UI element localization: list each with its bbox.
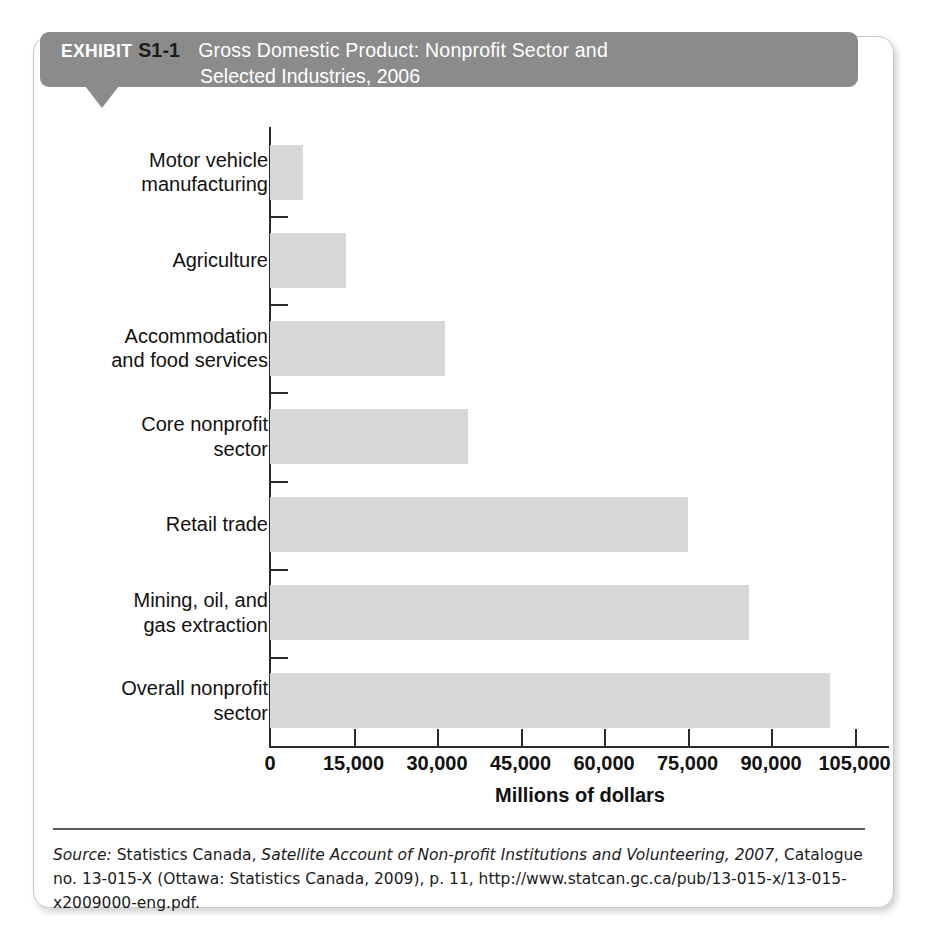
exhibit-header-line1: EXHIBITS1-1Gross Domestic Product: Nonpr… bbox=[61, 38, 858, 64]
exhibit-title-line1: Gross Domestic Product: Nonprofit Sector… bbox=[198, 39, 608, 61]
exhibit-label: EXHIBIT bbox=[61, 41, 132, 61]
source-note: Source: Statistics Canada, Satellite Acc… bbox=[53, 843, 873, 915]
source-prefix: Source: bbox=[53, 846, 112, 864]
exhibit-title-line2: Selected Industries, 2006 bbox=[200, 64, 858, 88]
source-publication-title: Satellite Account of Non-profit Institut… bbox=[261, 846, 774, 864]
source-text-before: Statistics Canada, bbox=[112, 846, 262, 864]
exhibit-number: S1-1 bbox=[138, 39, 180, 61]
exhibit-panel bbox=[33, 36, 894, 908]
header-pointer-triangle bbox=[85, 86, 119, 108]
source-divider bbox=[53, 828, 865, 830]
exhibit-header-banner: EXHIBITS1-1Gross Domestic Product: Nonpr… bbox=[40, 32, 858, 87]
